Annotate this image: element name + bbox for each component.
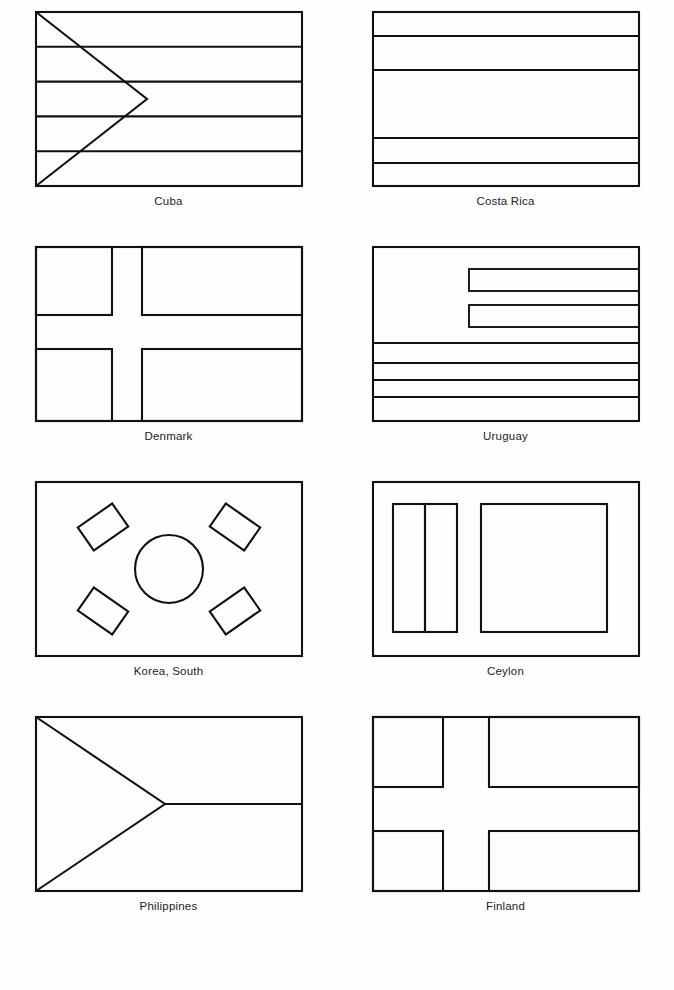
flag-cell-costa-rica[interactable]: Costa Rica bbox=[337, 0, 674, 235]
flag-label-costa-rica: Costa Rica bbox=[476, 195, 534, 207]
flag-chart-sheet: Cuba Costa Rica bbox=[0, 0, 674, 990]
flag-art-ceylon bbox=[371, 480, 641, 658]
flag-art-finland bbox=[371, 715, 641, 893]
flag-art-uruguay bbox=[371, 245, 641, 423]
flag-cell-denmark[interactable]: Denmark bbox=[0, 235, 337, 470]
flag-label-korea-south: Korea, South bbox=[134, 665, 204, 677]
flag-label-cuba: Cuba bbox=[154, 195, 182, 207]
flag-cell-uruguay[interactable]: Uruguay bbox=[337, 235, 674, 470]
flag-art-denmark bbox=[34, 245, 304, 423]
flag-label-denmark: Denmark bbox=[144, 430, 192, 442]
flag-art-korea-south bbox=[34, 480, 304, 658]
flag-cell-finland[interactable]: Finland bbox=[337, 705, 674, 940]
flag-label-ceylon: Ceylon bbox=[487, 665, 524, 677]
flag-label-finland: Finland bbox=[486, 900, 525, 912]
flag-cell-korea-south[interactable]: Korea, South bbox=[0, 470, 337, 705]
flag-art-cuba bbox=[34, 10, 304, 188]
flag-art-philippines bbox=[34, 715, 304, 893]
flag-grid: Cuba Costa Rica bbox=[0, 0, 674, 990]
flag-label-philippines: Philippines bbox=[140, 900, 198, 912]
flag-cell-philippines[interactable]: Philippines bbox=[0, 705, 337, 940]
flag-label-uruguay: Uruguay bbox=[483, 430, 528, 442]
flag-cell-ceylon[interactable]: Ceylon bbox=[337, 470, 674, 705]
flag-cell-cuba[interactable]: Cuba bbox=[0, 0, 337, 235]
flag-art-costa-rica bbox=[371, 10, 641, 188]
